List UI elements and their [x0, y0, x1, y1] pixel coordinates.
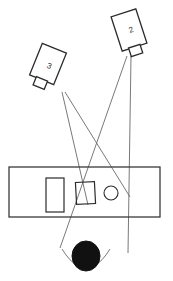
camera-setup-diagram: 2 3	[0, 0, 173, 281]
person-figure	[62, 241, 110, 271]
sight-lines-group	[60, 56, 131, 253]
camera-2: 2	[111, 9, 149, 59]
sight-line-camera-2-ray-left	[60, 56, 127, 248]
object-rect-large	[46, 178, 64, 212]
sight-line-camera-2-ray-right	[128, 56, 131, 253]
camera-3: 3	[27, 43, 67, 92]
sight-line-camera-3-ray-right	[65, 92, 130, 197]
person-head-icon	[72, 241, 100, 271]
object-circle	[104, 186, 118, 200]
diagram-canvas: 2 3	[0, 0, 173, 281]
table-platform	[9, 167, 160, 217]
table-objects-group	[46, 178, 118, 212]
